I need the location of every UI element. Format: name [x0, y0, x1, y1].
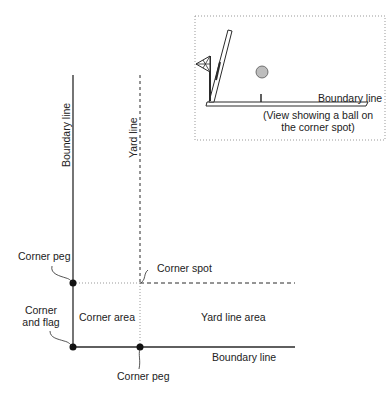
leader-corner-flag	[50, 331, 72, 346]
leader-corner-peg-bottom	[139, 349, 140, 369]
yard-line-label: Yard line	[127, 117, 139, 158]
inset-slanted-board	[209, 30, 232, 102]
left-boundary-label: Boundary line	[60, 103, 72, 167]
corner-area-label: Corner area	[79, 311, 135, 323]
inset-boundary-label: Boundary line	[318, 92, 382, 104]
corner-diagram	[0, 0, 387, 406]
bottom-boundary-label: Boundary line	[212, 351, 276, 363]
flag-icon	[196, 56, 210, 101]
leader-corner-peg-top	[52, 266, 72, 282]
yard-line-area-label: Yard line area	[201, 311, 266, 323]
corner-peg-top-label: Corner peg	[18, 250, 71, 262]
corner-spot-label: Corner spot	[157, 262, 212, 274]
ball-icon	[256, 66, 268, 78]
leader-corner-spot	[141, 270, 148, 283]
corner-and-flag-label-line1: Corner	[20, 304, 62, 316]
corner-peg-bottom-label: Corner peg	[117, 370, 170, 382]
inset-caption-line2: the corner spot)	[253, 121, 383, 133]
inset-caption-line1: (View showing a ball on	[253, 109, 383, 121]
corner-and-flag-label-line2: and flag	[18, 316, 64, 328]
